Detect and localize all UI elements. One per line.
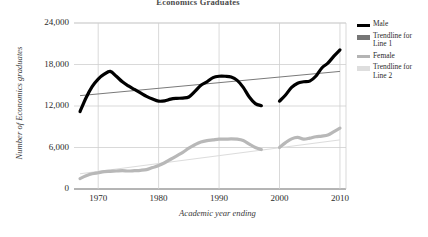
series-line-male [80,71,261,111]
y-tick-label: 0 [23,183,69,193]
legend-swatch-icon [357,35,370,40]
legend-label: Trendline for Line 1 [373,32,412,49]
y-tick-label: 24,000 [23,17,69,27]
series-line-male [280,50,340,101]
x-tick-label: 1970 [78,193,118,203]
x-tick-label: 1980 [139,193,179,203]
y-tick-label: 6,000 [23,142,69,152]
x-tick-label: 2000 [260,193,300,203]
x-tick-label: 2010 [320,193,360,203]
y-tick-label: 12,000 [23,100,69,110]
series-line-female [80,139,261,179]
y-tick-label: 18,000 [23,59,69,69]
series-line-female [280,128,340,147]
legend-item[interactable]: Male [357,20,428,29]
legend-item[interactable]: Female [357,52,428,61]
x-tick-label: 1990 [199,193,239,203]
legend-swatch-icon [357,66,370,71]
series-line-trendline-for-line-2 [80,140,340,174]
legend-label: Female [373,52,395,61]
legend-item[interactable]: Trendline for Line 2 [357,63,428,80]
legend-swatch-icon [357,24,370,28]
legend-item[interactable]: Trendline for Line 1 [357,32,428,49]
legend-label: Male [373,20,388,29]
legend-label: Trendline for Line 2 [373,63,412,80]
economics-graduates-chart: Economics Graduates Number of Economics … [0,0,428,237]
chart-legend: MaleTrendline for Line 1FemaleTrendline … [357,20,428,84]
legend-swatch-icon [357,55,370,58]
